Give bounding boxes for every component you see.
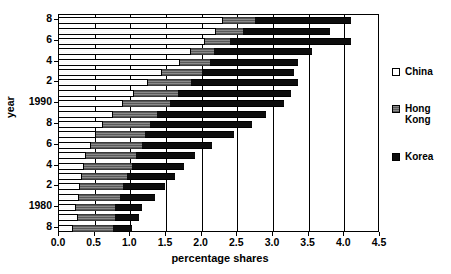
x-tick-mark	[201, 232, 202, 236]
legend: ChinaHong KongKorea	[392, 66, 451, 188]
bar-row	[59, 204, 142, 211]
legend-label: China	[405, 66, 433, 77]
hong-kong-segment	[162, 69, 201, 76]
china-segment	[59, 38, 205, 45]
x-tick-label: 3.5	[288, 236, 328, 248]
korea-segment	[136, 152, 194, 159]
y-tick-label: 8	[0, 116, 52, 128]
hong-kong-segment	[91, 142, 142, 149]
bar-row	[59, 17, 351, 24]
china-segment	[59, 173, 82, 180]
x-tick-label: 0.0	[38, 236, 78, 248]
stacked-bar-chart: year 86421990864219808 0.00.51.01.52.02.…	[0, 0, 451, 274]
korea-segment	[132, 163, 183, 170]
korea-segment	[210, 59, 298, 66]
bar-row	[59, 142, 212, 149]
hong-kong-segment	[180, 59, 210, 66]
hong-kong-segment	[113, 111, 158, 118]
hong-kong-segment	[73, 225, 113, 232]
korea-segment	[142, 142, 212, 149]
china-segment	[59, 225, 73, 232]
china-segment	[59, 59, 180, 66]
x-tick-mark	[165, 232, 166, 236]
x-tick-mark	[129, 232, 130, 236]
china-segment	[59, 214, 78, 221]
y-tick-label: 6	[0, 137, 52, 149]
bar-row	[59, 48, 312, 55]
x-tick-label: 1.0	[109, 236, 149, 248]
hong-kong-segment	[191, 48, 214, 55]
bar-row	[59, 28, 330, 35]
china-segment	[59, 90, 134, 97]
y-tick-label: 1980	[0, 199, 52, 211]
x-tick-label: 0.5	[74, 236, 114, 248]
y-tick-label: 2	[0, 74, 52, 86]
bar-row	[59, 214, 139, 221]
china-swatch	[392, 68, 400, 76]
hong-kong-swatch	[392, 105, 400, 113]
korea-segment	[243, 28, 330, 35]
bar-row	[59, 59, 298, 66]
korea-segment	[120, 194, 154, 201]
korea-segment	[115, 214, 139, 221]
plot-area	[58, 14, 379, 232]
china-segment	[59, 28, 216, 35]
y-tick-label: 2	[0, 178, 52, 190]
hong-kong-segment	[76, 204, 115, 211]
hong-kong-segment	[78, 214, 115, 221]
y-tick-label: 6	[0, 33, 52, 45]
x-tick-label: 1.5	[145, 236, 185, 248]
bar-row	[59, 111, 266, 118]
korea-segment	[113, 225, 132, 232]
hong-kong-segment	[84, 163, 133, 170]
x-tick-label: 4.0	[323, 236, 363, 248]
korea-segment	[123, 183, 164, 190]
bar-row	[59, 100, 284, 107]
korea-segment	[115, 204, 142, 211]
hong-kong-segment	[134, 90, 178, 97]
korea-segment	[145, 131, 234, 138]
hong-kong-segment	[86, 152, 136, 159]
x-tick-label: 2.0	[181, 236, 221, 248]
x-tick-mark	[236, 232, 237, 236]
bar-row	[59, 152, 195, 159]
x-tick-mark	[58, 232, 59, 236]
legend-label: Korea	[405, 151, 433, 162]
bar-row	[59, 183, 165, 190]
bar-row	[59, 194, 155, 201]
china-segment	[59, 111, 113, 118]
hong-kong-segment	[80, 183, 123, 190]
hong-kong-segment	[148, 79, 191, 86]
x-tick-mark	[94, 232, 95, 236]
china-segment	[59, 142, 91, 149]
korea-segment	[127, 173, 174, 180]
bar-row	[59, 131, 234, 138]
korea-segment	[170, 100, 284, 107]
hong-kong-segment	[216, 28, 243, 35]
bar-row	[59, 163, 184, 170]
china-segment	[59, 17, 223, 24]
legend-label: Hong Kong	[405, 103, 431, 125]
hong-kong-segment	[103, 121, 150, 128]
korea-segment	[255, 17, 351, 24]
hong-kong-segment	[82, 173, 128, 180]
hong-kong-segment	[96, 131, 145, 138]
hong-kong-segment	[223, 17, 255, 24]
china-segment	[59, 183, 80, 190]
china-segment	[59, 79, 148, 86]
china-segment	[59, 48, 191, 55]
korea-segment	[230, 38, 351, 45]
korea-segment	[202, 69, 295, 76]
korea-segment	[191, 79, 298, 86]
hong-kong-segment	[79, 194, 120, 201]
korea-swatch	[392, 153, 400, 161]
bar-row	[59, 79, 298, 86]
hong-kong-segment	[205, 38, 230, 45]
x-tick-label: 4.5	[359, 236, 399, 248]
y-tick-label: 8	[0, 220, 52, 232]
legend-item: Korea	[392, 151, 451, 162]
china-segment	[59, 131, 96, 138]
legend-item: Hong Kong	[392, 103, 451, 125]
bar-row	[59, 121, 252, 128]
china-segment	[59, 121, 103, 128]
